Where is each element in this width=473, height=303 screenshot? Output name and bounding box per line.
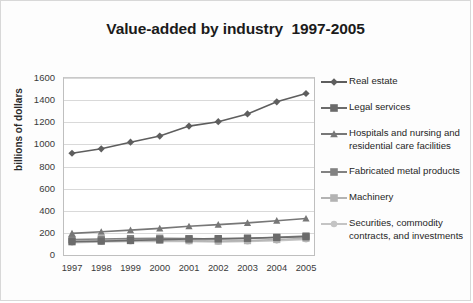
circle-marker-icon — [321, 218, 347, 230]
y-axis-tick: 400 — [39, 204, 55, 215]
x-axis-tick: 2004 — [266, 263, 287, 273]
y-axis-tick: 1600 — [34, 72, 55, 83]
legend-item[interactable]: Hospitals and nursing and residential ca… — [321, 127, 467, 152]
series-3 — [68, 215, 309, 237]
legend-item[interactable]: Fabricated metal products — [321, 165, 467, 178]
legend-item[interactable]: Legal services — [321, 101, 467, 114]
legend-item[interactable]: Machinery — [321, 191, 467, 204]
x-axis-tick: 2003 — [237, 263, 258, 273]
chart-container: Value-added by industry 1997-2005 billio… — [0, 0, 471, 301]
chart-legend: Real estateLegal servicesHospitals and n… — [321, 75, 467, 255]
y-axis-tick: 200 — [39, 226, 55, 237]
legend-label: Real estate — [347, 75, 398, 88]
legend-item[interactable]: Real estate — [321, 75, 467, 88]
x-axis-tick: 2002 — [208, 263, 229, 273]
x-axis-tick: 2001 — [179, 263, 200, 273]
legend-label: Fabricated metal products — [347, 165, 460, 178]
x-axis-tick: 2005 — [296, 263, 317, 273]
square-marker-icon — [321, 102, 347, 114]
square-marker-icon — [321, 192, 347, 204]
triangle-marker-icon — [321, 128, 347, 140]
y-axis-tick: 600 — [39, 182, 55, 193]
x-axis-tick: 1999 — [120, 263, 141, 273]
x-axis-tick: 1998 — [91, 263, 112, 273]
plot-area — [63, 77, 315, 256]
legend-label: Legal services — [347, 101, 410, 114]
square-marker-icon — [321, 166, 347, 178]
y-axis-tick: 800 — [39, 160, 55, 171]
chart-title: Value-added by industry 1997-2005 — [1, 20, 470, 38]
y-axis-tick: 1000 — [34, 138, 55, 149]
x-axis-tick: 1997 — [62, 263, 83, 273]
y-axis-tick: 1200 — [34, 116, 55, 127]
legend-label: Securities, commodity contracts, and inv… — [347, 217, 467, 242]
legend-label: Machinery — [347, 191, 393, 204]
x-axis-tick: 2000 — [149, 263, 170, 273]
legend-item[interactable]: Securities, commodity contracts, and inv… — [321, 217, 467, 242]
diamond-marker-icon — [321, 76, 347, 88]
y-axis-tick-labels: 02004006008001000120014001600 — [1, 71, 59, 262]
series-1 — [68, 90, 309, 157]
x-axis-tick-labels: 199719981999200020012002200320042005 — [63, 263, 315, 279]
y-axis-tick: 1400 — [34, 94, 55, 105]
y-axis-tick: 0 — [50, 249, 55, 260]
legend-label: Hospitals and nursing and residential ca… — [347, 127, 467, 152]
series-lines — [64, 78, 314, 255]
